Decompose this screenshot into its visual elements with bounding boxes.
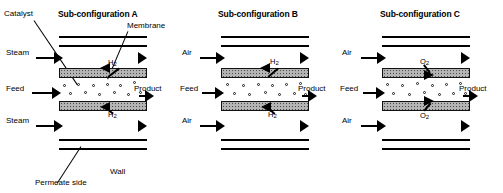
inlet-label-feed-a: Feed: [6, 84, 24, 93]
inlet-arrow-bottom-shaft-a: [36, 125, 56, 127]
inlet-arrow-top-head-b: [216, 52, 225, 64]
wall-bottom-outer-b: [221, 148, 309, 150]
permeation-label-bottom-b: H2: [268, 110, 277, 119]
inlet-label-top-c: Air: [342, 48, 352, 57]
inlet-label-bottom-b: Air: [182, 116, 192, 125]
inlet-label-top-b: Air: [182, 48, 192, 57]
sweep-outlet-arrow-bottom-b: [300, 120, 309, 132]
wall-bottom-outer: [59, 148, 147, 150]
permeation-label-bottom-a: H2: [108, 110, 117, 119]
wall-bottom-inner: [59, 139, 147, 141]
inlet-arrow-bottom-head-c: [377, 120, 386, 132]
permeation-label-bottom-c: O2: [420, 111, 429, 120]
inlet-label-feed-c: Feed: [340, 84, 358, 93]
feed-channel-b: [221, 79, 309, 101]
wall-bottom-inner-c: [382, 139, 470, 141]
inlet-arrow-top-shaft-a: [36, 57, 56, 59]
inlet-arrow-feed-head-c: [376, 87, 385, 99]
wall-top-inner: [59, 45, 147, 47]
inlet-arrow-feed-head-b: [215, 87, 224, 99]
sweep-outlet-arrow-bottom-c: [461, 120, 470, 132]
sweep-outlet-arrow-bottom-a: [138, 120, 147, 132]
wall-bottom-outer-c: [382, 148, 470, 150]
sweep-outlet-arrow-top-a: [138, 52, 147, 64]
permeate-side-label: Permeate side: [35, 178, 87, 187]
sweep-outlet-arrow-top-c: [461, 52, 470, 64]
sweep-outlet-arrow-top-b: [300, 52, 309, 64]
inlet-label-feed-b: Feed: [180, 84, 198, 93]
catalyst-label: Catalyst: [4, 9, 33, 18]
membrane-label: Membrane: [127, 21, 165, 30]
wall-top-outer: [59, 36, 147, 38]
inlet-label-bottom-c: Air: [342, 116, 352, 125]
panel-sub-configuration-c: Sub-configuration C Air O2: [338, 0, 503, 193]
inlet-arrow-feed-head-a: [52, 87, 61, 99]
inlet-arrow-feed-shaft-a: [32, 92, 54, 94]
outlet-arrow-product-head-c: [469, 90, 478, 102]
panel-sub-configuration-a: Sub-configuration A Catalyst Membrane St…: [0, 0, 180, 193]
wall-label: Wall: [110, 167, 125, 176]
wall-top-inner-c: [382, 45, 470, 47]
permeation-label-top-b: H2: [270, 57, 279, 66]
panel-title-b: Sub-configuration B: [218, 9, 298, 19]
inlet-label-bottom-a: Steam: [6, 116, 29, 125]
permeation-label-top-a: H2: [108, 58, 117, 67]
panel-title-a: Sub-configuration A: [58, 9, 137, 19]
panel-title-c: Sub-configuration C: [380, 9, 460, 19]
membrane-reactor-figure: Sub-configuration A Catalyst Membrane St…: [0, 0, 503, 193]
permeation-label-top-c: O2: [420, 57, 429, 66]
wall-top-outer-c: [382, 36, 470, 38]
inlet-label-top-a: Steam: [6, 48, 29, 57]
inlet-arrow-bottom-head-b: [216, 120, 225, 132]
wall-top-outer-b: [221, 36, 309, 38]
outlet-arrow-product-head-b: [308, 90, 317, 102]
panel-sub-configuration-b: Sub-configuration B Air H2: [178, 0, 340, 193]
inlet-arrow-top-head-c: [377, 52, 386, 64]
wall-bottom-inner-b: [221, 139, 309, 141]
inlet-arrow-top-head-a: [54, 52, 63, 64]
inlet-arrow-bottom-head-a: [54, 120, 63, 132]
wall-top-inner-b: [221, 45, 309, 47]
